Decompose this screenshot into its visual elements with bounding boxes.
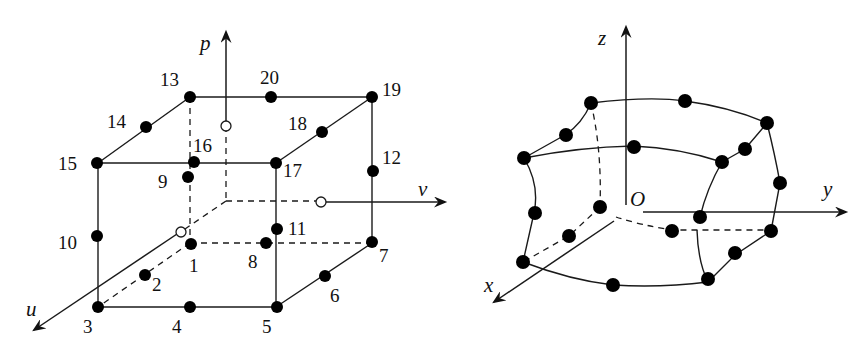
node-label-11: 11: [288, 218, 306, 239]
x-axis: [494, 221, 614, 302]
curve-top-front: [524, 146, 722, 162]
curved-node: [760, 116, 774, 130]
node-12: [367, 165, 379, 177]
u-axis-label: u: [26, 297, 37, 321]
node-15: [91, 157, 103, 169]
node-label-4: 4: [172, 316, 182, 337]
node-label-10: 10: [58, 232, 77, 253]
node-1: [185, 238, 197, 250]
u-axis-hidden: [182, 201, 226, 231]
node-label-3: 3: [83, 316, 93, 337]
node-5: [271, 301, 283, 313]
node-19: [366, 91, 378, 103]
node-label-2: 2: [152, 274, 162, 295]
curved-node: [559, 128, 573, 142]
curve-front-right-vertical: [700, 162, 722, 217]
node-label-15: 15: [58, 153, 77, 174]
curved-node: [516, 255, 530, 269]
curved-node: [678, 94, 692, 108]
curved-node: [665, 224, 679, 238]
node-label-16: 16: [193, 135, 212, 156]
node-3: [92, 301, 104, 313]
node-11: [271, 223, 283, 235]
node-16: [188, 156, 200, 168]
curved-node: [764, 224, 778, 238]
node-label-6: 6: [330, 285, 340, 306]
node-17: [270, 157, 282, 169]
curved-node: [715, 155, 729, 169]
node-4: [184, 301, 196, 313]
node-9: [182, 171, 194, 183]
node-label-20: 20: [260, 67, 279, 88]
curved-node: [627, 140, 641, 154]
node-label-19: 19: [382, 79, 401, 100]
node-20: [265, 91, 277, 103]
node-10: [91, 230, 103, 242]
curved-node: [562, 229, 576, 243]
node-8: [260, 237, 272, 249]
node-label-8: 8: [248, 251, 258, 272]
node-label-5: 5: [262, 316, 272, 337]
isoparametric-element-figure: 1 2 3 4 5 6 7 8 9 10 11 12 13 14 15 16 1…: [0, 0, 866, 349]
v-face-marker: [316, 197, 326, 207]
curved-node: [528, 206, 542, 220]
node-14: [140, 121, 152, 133]
x-axis-label: x: [483, 273, 494, 297]
curved-node: [517, 151, 531, 165]
node-13: [184, 91, 196, 103]
node-6: [319, 270, 331, 282]
curved-node: [738, 142, 752, 156]
node-label-14: 14: [107, 111, 127, 132]
y-axis-label: y: [821, 177, 833, 201]
curved-node: [606, 278, 620, 292]
node-label-18: 18: [288, 113, 307, 134]
p-axis-label: p: [198, 31, 211, 55]
curved-node: [773, 176, 787, 190]
node-label-12: 12: [382, 147, 401, 168]
curved-node: [584, 96, 598, 110]
curved-element-diagram: z y x O: [483, 26, 846, 302]
node-label-1: 1: [189, 255, 199, 276]
curved-node: [693, 210, 707, 224]
curved-node: [593, 200, 607, 214]
node-label-17: 17: [283, 160, 302, 181]
node-18: [316, 126, 328, 138]
z-axis-label: z: [597, 26, 606, 50]
p-face-marker: [221, 121, 231, 131]
origin-label: O: [630, 187, 645, 211]
u-face-marker: [176, 227, 186, 237]
node-7: [366, 236, 378, 248]
node-label-7: 7: [379, 245, 389, 266]
node-2: [139, 269, 151, 281]
node-label-13: 13: [160, 69, 179, 90]
hidden-curve-back-bottom: [616, 217, 770, 230]
v-axis-label: v: [418, 177, 428, 201]
curved-node: [728, 246, 742, 260]
curved-node: [701, 272, 715, 286]
hidden-curve-top-to-back: [591, 103, 600, 207]
node-label-9: 9: [158, 171, 168, 192]
cube-element-diagram: 1 2 3 4 5 6 7 8 9 10 11 12 13 14 15 16 1…: [26, 31, 445, 337]
